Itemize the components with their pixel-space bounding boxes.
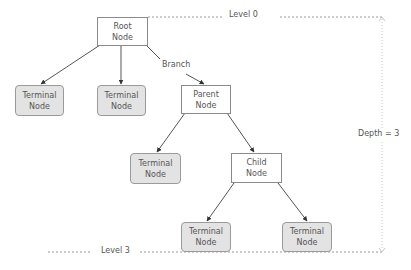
terminal-node: Terminal Node xyxy=(181,222,231,252)
level-3-label: Level 3 xyxy=(99,246,132,255)
node-label: Node xyxy=(112,32,133,43)
level-0-label: Level 0 xyxy=(227,10,260,19)
node-label: Node xyxy=(196,237,217,248)
edges xyxy=(41,45,307,221)
root-node: Root Node xyxy=(97,17,148,46)
node-label: Node xyxy=(29,101,50,112)
terminal-node: Terminal Node xyxy=(130,153,181,184)
node-label: Node xyxy=(196,100,217,111)
child-node: Child Node xyxy=(231,153,282,183)
node-label: Terminal xyxy=(290,226,324,237)
node-label: Root xyxy=(113,21,131,32)
node-label: Terminal xyxy=(23,90,57,101)
terminal-node: Terminal Node xyxy=(97,85,146,116)
node-label: Terminal xyxy=(189,226,223,237)
branch-label: Branch xyxy=(160,60,192,69)
node-label: Terminal xyxy=(105,90,139,101)
node-label: Terminal xyxy=(139,158,173,169)
node-label: Node xyxy=(145,169,166,180)
node-label: Parent xyxy=(193,89,219,100)
tree-diagram: Root Node Terminal Node Terminal Node Br… xyxy=(0,0,411,270)
node-label: Node xyxy=(111,101,132,112)
node-label: Node xyxy=(246,168,267,179)
depth-label: Depth = 3 xyxy=(356,129,401,138)
terminal-node: Terminal Node xyxy=(282,222,332,252)
parent-node: Parent Node xyxy=(181,85,231,114)
terminal-node: Terminal Node xyxy=(15,85,64,116)
node-label: Child xyxy=(246,157,266,168)
node-label: Node xyxy=(297,237,318,248)
